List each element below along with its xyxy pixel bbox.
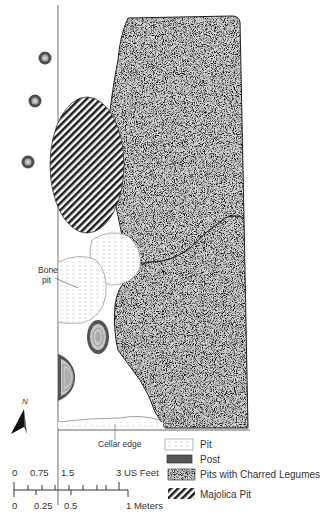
legend-swatch-charred-texture [168,469,195,480]
legend-label-charred: Pits with Charred Legumes [200,469,320,480]
legend-label-post: Post [200,454,220,465]
scale-m-025: 0.25 [34,500,53,511]
north-label: N [22,397,28,406]
scale-feet-0: 0 [12,467,17,478]
post-1 [39,52,52,65]
legend-swatch-post [167,455,192,463]
scale-bar: 0 0.75 1.5 3 US Feet 0 0.25 0.5 1 Meters [12,467,163,511]
post-3 [22,156,35,169]
legend-label-pit: Pit [200,439,212,450]
bone-pit [58,256,106,323]
scale-feet-075: 0.75 [30,467,49,478]
site-plan: Bone pit Cellar edge N 0 0.75 1.5 3 US F… [0,0,325,523]
legend-label-majolica: Majolica Pit [200,489,251,500]
scale-m-05: 0.5 [64,500,77,511]
cellar-edge-fill [58,422,163,428]
post-half [58,354,75,401]
scale-m-1: 1 Meters [126,500,163,511]
bone-pit-label-2: pit [42,275,52,285]
legend: Pit Post Pits with Charred Legumes Majol… [165,439,320,500]
post-oval [87,320,109,354]
north-arrow: N [11,397,28,434]
scale-feet-3: 3 US Feet [116,467,159,478]
majolica-pit [50,97,124,233]
legend-swatch-pit [165,439,193,450]
cellar-edge-label: Cellar edge [98,439,142,449]
scale-m-0: 0 [12,500,17,511]
scale-feet-15: 1.5 [61,467,74,478]
legend-swatch-majolica [168,488,195,499]
post-2 [29,95,42,108]
bone-pit-label: Bone [38,265,58,275]
